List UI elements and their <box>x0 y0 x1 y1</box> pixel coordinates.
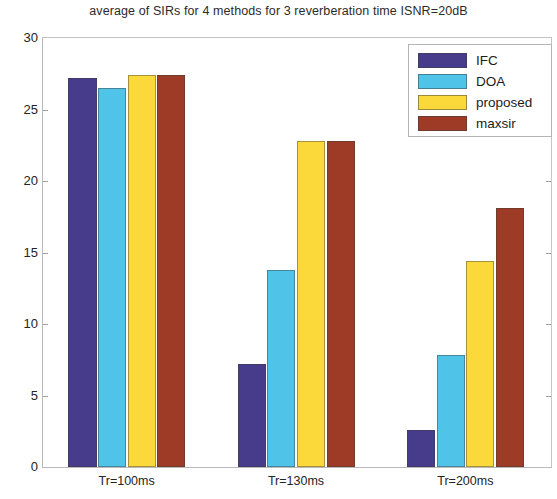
bar <box>466 261 494 467</box>
legend-swatch-icon <box>418 53 467 68</box>
bar <box>98 88 126 467</box>
y-tick-mark <box>546 324 551 325</box>
legend-label: DOA <box>476 75 505 89</box>
y-tick-mark <box>43 110 48 111</box>
y-tick-label: 10 <box>4 316 38 331</box>
y-tick-mark <box>546 253 551 254</box>
y-tick-label: 30 <box>4 30 38 45</box>
legend-label: maxsir <box>476 117 516 131</box>
y-tick-mark <box>43 324 48 325</box>
bar <box>128 75 156 467</box>
legend: IFCDOAproposedmaxsir <box>408 44 552 137</box>
bar <box>496 208 524 467</box>
bar <box>267 270 295 467</box>
bar <box>407 430 435 467</box>
y-tick-label: 25 <box>4 101 38 116</box>
y-tick-label: 0 <box>4 459 38 474</box>
y-tick-label: 15 <box>4 244 38 259</box>
bar <box>157 75 185 467</box>
x-tick-label: Tr=130ms <box>268 474 324 488</box>
legend-swatch-icon <box>418 74 467 89</box>
y-tick-mark <box>546 181 551 182</box>
legend-item[interactable]: proposed <box>418 92 551 113</box>
bar <box>68 78 96 467</box>
x-tick-label: Tr=100ms <box>99 474 155 488</box>
y-tick-label: 20 <box>4 173 38 188</box>
legend-item[interactable]: IFC <box>418 50 551 71</box>
x-tick-label: Tr=200ms <box>437 474 493 488</box>
chart-title: average of SIRs for 4 methods for 3 reve… <box>0 4 557 18</box>
y-tick-mark <box>43 396 48 397</box>
bar <box>297 141 325 467</box>
y-tick-mark <box>43 253 48 254</box>
legend-label: IFC <box>476 54 498 68</box>
y-tick-mark <box>43 181 48 182</box>
legend-swatch-icon <box>418 116 467 131</box>
bar <box>238 364 266 467</box>
legend-item[interactable]: maxsir <box>418 113 551 134</box>
bar <box>437 355 465 467</box>
legend-label: proposed <box>476 96 532 110</box>
bar <box>327 141 355 467</box>
figure-canvas: average of SIRs for 4 methods for 3 reve… <box>0 0 557 499</box>
y-tick-label: 5 <box>4 387 38 402</box>
legend-swatch-icon <box>418 95 467 110</box>
legend-item[interactable]: DOA <box>418 71 551 92</box>
y-tick-mark <box>546 396 551 397</box>
y-axis-labels: 051015202530 <box>0 37 38 468</box>
